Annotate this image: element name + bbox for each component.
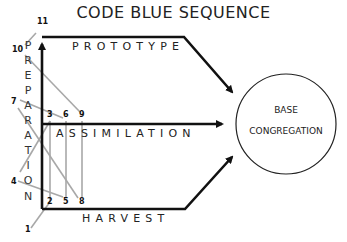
step-number-4: 4	[11, 177, 17, 186]
step-number-7: 7	[11, 97, 17, 106]
prep-letter: P	[22, 39, 34, 52]
prep-letter: P	[22, 84, 34, 97]
main-tracks	[42, 37, 232, 209]
step-number-10: 10	[12, 45, 23, 54]
track-label-harvest: HARVEST	[82, 212, 169, 225]
step-number-2: 2	[47, 197, 53, 206]
prep-letter: A	[22, 99, 34, 112]
step-number-6: 6	[63, 110, 69, 119]
target-label-line1: BASE	[236, 105, 336, 115]
target-label-line2: CONGREGATION	[236, 126, 336, 136]
track-label-assimilation: ASSIMILATION	[56, 127, 196, 140]
prep-letter: I	[22, 159, 34, 172]
track-label-prototype: PROTOTYPE	[72, 40, 184, 53]
step-number-3: 3	[47, 110, 53, 119]
prep-letter: E	[22, 69, 34, 82]
step-number-8: 8	[79, 197, 85, 206]
prep-letter: R	[22, 114, 34, 127]
harvest-arrow	[42, 157, 232, 209]
step-number-11: 11	[37, 17, 48, 26]
step-number-9: 9	[79, 110, 85, 119]
base-congregation-circle	[236, 74, 336, 174]
prep-letter: R	[22, 54, 34, 67]
step-number-1: 1	[25, 225, 31, 234]
prep-letter: N	[22, 190, 34, 203]
prep-letter: O	[22, 174, 34, 187]
step-number-5: 5	[63, 197, 69, 206]
prep-letter: T	[22, 144, 34, 157]
prep-letter: A	[22, 129, 34, 142]
